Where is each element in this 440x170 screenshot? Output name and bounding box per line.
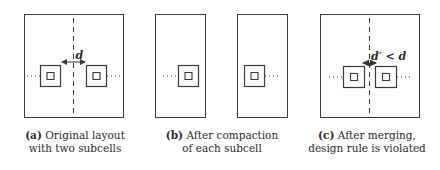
left-contact-inner	[47, 73, 54, 80]
panel-c: d′ < d	[321, 15, 420, 118]
right-contact-outer	[376, 67, 397, 88]
right-contact-inner	[251, 73, 258, 80]
caption-tag: (b)	[166, 129, 183, 141]
left-contact-inner	[185, 73, 192, 80]
left-contact-inner	[351, 74, 358, 81]
spacing-label-d-prime: d′ < d	[371, 50, 406, 63]
left-contact-outer	[179, 66, 199, 87]
right-contact-outer	[87, 66, 107, 87]
right-contact-outer	[245, 66, 265, 87]
caption-line2: design rule is violated	[292, 142, 440, 155]
spacing-label-d: d	[76, 49, 84, 62]
right-contact-inner	[383, 74, 390, 81]
caption-line1: Original layout	[45, 129, 125, 141]
left-contact-outer	[344, 67, 365, 88]
left-contact-outer	[41, 66, 61, 87]
caption-tag: (a)	[25, 129, 42, 141]
caption-line1: After compaction	[186, 129, 278, 141]
caption-line2: of each subcell	[147, 142, 297, 155]
caption-c: (c) After merging, design rule is violat…	[292, 129, 440, 155]
caption-b: (b) After compaction of each subcell	[147, 129, 297, 155]
right-contact-inner	[93, 73, 100, 80]
panel-a: d	[25, 15, 124, 118]
caption-tag: (c)	[318, 129, 334, 141]
caption-line1: After merging,	[338, 129, 416, 141]
panel-b	[156, 15, 288, 118]
caption-line2: with two subcells	[0, 142, 150, 155]
caption-a: (a) Original layout with two subcells	[0, 129, 150, 155]
